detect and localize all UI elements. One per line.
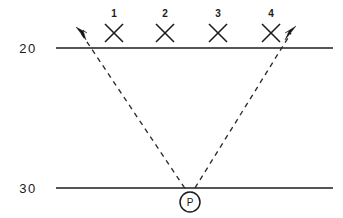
ray-path-group bbox=[81, 33, 291, 196]
receiver-label-2: 2 bbox=[162, 8, 168, 19]
arrowhead-left-icon bbox=[76, 27, 87, 40]
receiver-marker-2: 2 bbox=[156, 8, 174, 42]
depth-label-group: 20 30 bbox=[19, 41, 36, 196]
receiver-marker-3: 3 bbox=[209, 8, 227, 42]
ray-path-left bbox=[81, 33, 190, 196]
source-label-p: P bbox=[187, 197, 194, 208]
receiver-marker-4: 4 bbox=[262, 8, 280, 42]
ray-path-right bbox=[190, 33, 291, 196]
receiver-marker-1: 1 bbox=[105, 8, 123, 42]
receiver-label-1: 1 bbox=[111, 8, 117, 19]
horizon-group bbox=[56, 48, 333, 188]
receiver-label-4: 4 bbox=[268, 8, 274, 19]
depth-label-20: 20 bbox=[19, 41, 36, 56]
figure-container: 20 30 1 2 3 4 bbox=[0, 0, 343, 218]
ray-diagram-svg: 20 30 1 2 3 4 bbox=[0, 0, 343, 218]
depth-label-30: 30 bbox=[19, 181, 36, 196]
receiver-group: 1 2 3 4 bbox=[105, 8, 280, 42]
arrowhead-right-icon bbox=[285, 26, 296, 40]
receiver-label-3: 3 bbox=[215, 8, 221, 19]
source-point-group: P bbox=[180, 192, 200, 212]
